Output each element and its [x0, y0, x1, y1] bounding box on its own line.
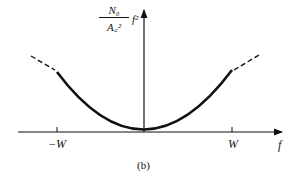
dashed-extension-left	[31, 56, 55, 70]
y-label-denominator: A꜀²	[99, 18, 129, 34]
tick-label-neg-w: −W	[48, 138, 66, 150]
y-label-numerator: N₀	[99, 4, 129, 18]
y-label-suffix: f²	[132, 13, 138, 25]
diagram-canvas	[0, 0, 299, 177]
dashed-extension-right	[234, 55, 259, 70]
tick-label-pos-w: W	[228, 138, 238, 150]
y-axis-label-fraction: N₀ A꜀²	[99, 4, 129, 34]
x-axis-label: f	[278, 139, 281, 151]
figure-caption: (b)	[137, 159, 150, 171]
